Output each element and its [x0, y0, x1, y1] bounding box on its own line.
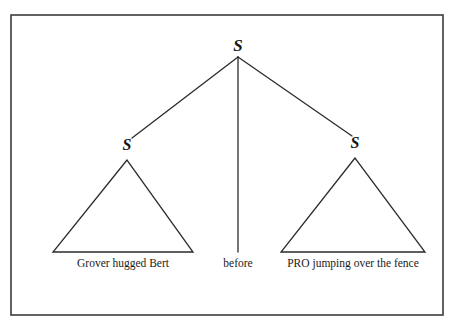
- terminal-left-clause: Grover hugged Bert: [77, 258, 169, 270]
- node-label-right-s: S: [351, 135, 360, 151]
- terminal-middle-conjunction: before: [223, 258, 252, 270]
- tree-drawing-canvas: [0, 0, 458, 326]
- syntax-tree-figure: S S S Grover hugged Bert before PRO jump…: [0, 0, 458, 326]
- node-label-root-s: S: [233, 37, 242, 54]
- figure-frame: [11, 15, 443, 315]
- terminal-right-clause: PRO jumping over the fence: [287, 258, 419, 270]
- node-label-left-s: S: [123, 137, 132, 153]
